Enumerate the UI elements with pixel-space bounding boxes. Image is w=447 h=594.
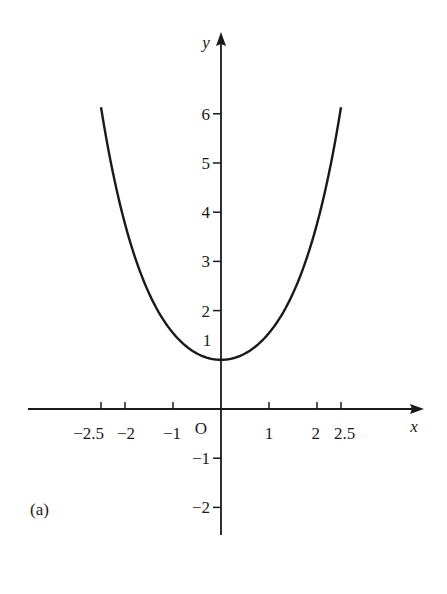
x-tick-label: 2 bbox=[312, 424, 321, 443]
y-tick-label: 6 bbox=[202, 105, 211, 124]
x-axis-label: x bbox=[409, 417, 418, 436]
y-tick-label: 2 bbox=[202, 302, 211, 321]
x-tick-label: 2.5 bbox=[334, 424, 355, 443]
x-tick-label: −1 bbox=[163, 424, 181, 443]
y-axis-arrow-icon bbox=[216, 32, 226, 46]
panel-label: (a) bbox=[30, 500, 49, 519]
x-axis-arrow-icon bbox=[410, 404, 424, 414]
y-axis-label: y bbox=[200, 33, 210, 52]
y-tick-label: 3 bbox=[202, 252, 211, 271]
y-tick-label: 5 bbox=[202, 154, 211, 173]
origin-label: O bbox=[195, 419, 207, 438]
y-tick-label: 4 bbox=[202, 203, 211, 222]
y-tick-label: −1 bbox=[192, 449, 210, 468]
x-tick-label: −2 bbox=[117, 424, 135, 443]
x-tick-label: −2.5 bbox=[73, 424, 104, 443]
y-tick-label: −2 bbox=[192, 498, 210, 517]
cosh-graph: −2.5−2−1122.565432−1−21xyO(a) bbox=[0, 0, 447, 594]
y-value-1-label: 1 bbox=[203, 331, 212, 350]
x-tick-label: 1 bbox=[265, 424, 274, 443]
